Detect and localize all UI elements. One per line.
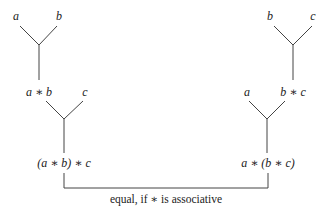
- edge-b-to-bc: [274, 26, 293, 45]
- edge-ab-to-root: [46, 101, 64, 119]
- edge-b-to-ab: [39, 26, 57, 45]
- edge-c-to-root: [64, 101, 83, 119]
- left-node-ab: a ∗ b: [26, 85, 52, 99]
- edge-c-to-bc: [293, 26, 312, 45]
- edge-a-to-root: [249, 101, 267, 119]
- right-leaf-a: a: [244, 85, 250, 99]
- equality-bracket: equal, if ∗ is associative: [64, 173, 268, 206]
- left-leaf-a: a: [13, 9, 19, 23]
- left-leaf-b: b: [56, 9, 62, 23]
- left-root-label: (a ∗ b) ∗ c: [37, 156, 91, 170]
- edge-bc-to-root: [267, 101, 285, 119]
- edge-a-to-ab: [20, 26, 39, 45]
- right-leaf-b: b: [267, 9, 273, 23]
- right-tree: b c a b ∗ c a ∗ (b ∗ c): [241, 9, 316, 170]
- equality-caption: equal, if ∗ is associative: [110, 193, 222, 206]
- right-leaf-c: c: [310, 9, 316, 23]
- left-tree: a b a ∗ b c (a ∗ b) ∗ c: [13, 9, 91, 170]
- left-leaf-c: c: [82, 85, 88, 99]
- associativity-diagram: a b a ∗ b c (a ∗ b) ∗ c b c a b ∗ c a ∗ …: [0, 0, 325, 212]
- bracket-line: [64, 173, 268, 188]
- right-node-bc: b ∗ c: [280, 85, 306, 99]
- right-root-label: a ∗ (b ∗ c): [241, 156, 295, 170]
